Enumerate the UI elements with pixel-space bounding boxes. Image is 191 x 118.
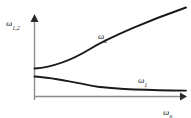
y-axis-subscript: 1,2 xyxy=(12,25,20,31)
omega1-subscript: 1 xyxy=(144,82,147,88)
y-axis-label: ω1,2 xyxy=(6,13,20,31)
curve-label-omega1: ω1 xyxy=(138,70,147,88)
curve-omega2 xyxy=(35,8,187,69)
omega2-subscript: 2 xyxy=(104,38,107,44)
dispersion-chart: ω1,2 ωβ ω2 ω1 xyxy=(0,0,191,118)
x-axis-subscript: β xyxy=(169,114,172,118)
x-axis-arrow-icon xyxy=(180,93,187,101)
y-axis-arrow-icon xyxy=(31,14,39,22)
curve-label-omega2: ω2 xyxy=(98,26,107,44)
curve-omega1 xyxy=(35,77,187,91)
chart-plot-area xyxy=(0,0,191,118)
x-axis-label: ωβ xyxy=(163,102,172,118)
